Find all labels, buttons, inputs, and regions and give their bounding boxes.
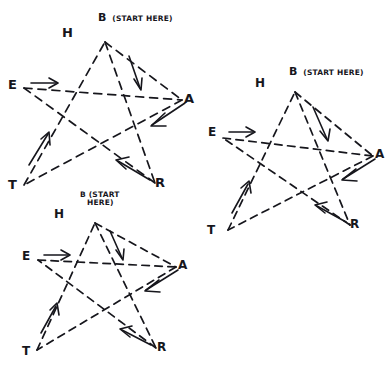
edge-b-to-a <box>295 92 373 156</box>
vertex-label-a: A <box>184 92 194 105</box>
edge-h-to-r <box>105 42 155 183</box>
start-here-note: B (START HERE) <box>289 62 364 79</box>
vertex-label-e: E <box>22 250 30 262</box>
vertex-label-e: E <box>208 126 216 138</box>
arrow-e-to-a <box>31 78 58 88</box>
star-figure-bottom-left: H E A T R B (START HERE) <box>18 190 198 367</box>
vertex-label-t: T <box>207 224 215 236</box>
vertex-label-t: T <box>22 345 30 357</box>
start-note-stacked: B (START HERE) <box>80 191 120 207</box>
edge-h-to-r <box>95 223 156 348</box>
start-note-line-2: HERE) <box>80 199 120 207</box>
vertex-label-h: H <box>255 77 265 89</box>
edge-h-to-r <box>295 92 350 225</box>
arrow-t-to-h <box>232 181 251 213</box>
arrow-e-to-a <box>229 127 255 137</box>
star-strokes-top-left <box>0 0 205 200</box>
vertex-label-r: R <box>350 218 359 230</box>
diagram-canvas: H E A T R B (START HERE) <box>0 0 390 367</box>
edge-b-to-a <box>105 42 182 100</box>
vertex-label-r: R <box>155 176 165 189</box>
edge-e-to-a <box>223 138 373 156</box>
edge-e-to-a <box>24 88 182 100</box>
arrow-a-to-t <box>145 270 178 292</box>
vertex-label-h: H <box>62 26 73 39</box>
vertex-label-a: A <box>375 148 384 160</box>
arrow-e-to-a <box>44 250 70 260</box>
start-here-note: B (START HERE) <box>98 8 173 25</box>
arrow-r-to-t <box>116 157 150 180</box>
star-strokes-right <box>205 60 390 245</box>
start-note-parenthetical: (START HERE) <box>303 68 363 77</box>
start-here-note: B (START HERE) <box>80 191 120 208</box>
start-note-parenthetical: (START HERE) <box>112 14 172 23</box>
vertex-label-h: H <box>54 208 64 220</box>
star-figure-top-left: H E A T R B (START HERE) <box>0 0 205 200</box>
arrow-b-to-a <box>129 56 142 90</box>
arrow-t-to-h <box>29 132 50 165</box>
edge-e-to-a <box>38 260 176 267</box>
edge-r-to-e <box>24 88 155 183</box>
edge-b-to-a <box>95 223 176 267</box>
start-note-letter: B <box>289 65 298 78</box>
vertex-label-a: A <box>178 259 187 271</box>
arrow-b-to-a <box>313 107 330 141</box>
star-figure-right: H E A T R B (START HERE) <box>205 60 390 245</box>
star-strokes-bottom-left <box>18 190 198 367</box>
start-note-letter: B <box>98 11 107 24</box>
edge-t-to-h <box>37 223 95 350</box>
edge-t-to-h <box>228 92 295 230</box>
vertex-label-e: E <box>8 78 17 91</box>
vertex-label-t: T <box>8 178 17 191</box>
vertex-label-r: R <box>157 341 166 353</box>
